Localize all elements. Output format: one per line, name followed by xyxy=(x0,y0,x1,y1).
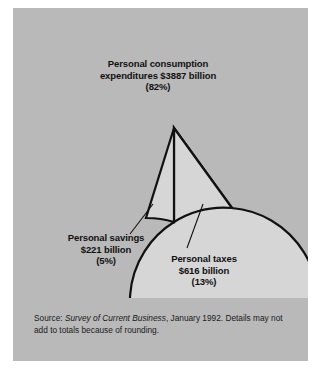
taxes-label-line1: Personal taxes xyxy=(138,253,270,265)
taxes-label-line3: (13%) xyxy=(138,276,270,288)
source-note: Source: Survey of Current Business, Janu… xyxy=(34,313,294,336)
taxes-label-line2: $616 billion xyxy=(138,265,270,277)
savings-label-line1: Personal savings xyxy=(40,232,172,244)
slice-label-taxes: Personal taxes $616 billion (13%) xyxy=(138,253,270,288)
consumption-label-line3: (82%) xyxy=(53,81,263,93)
consumption-label-line2: expenditures $3887 billion xyxy=(53,70,263,82)
slice-label-consumption: Personal consumption expenditures $3887 … xyxy=(53,58,263,93)
pie-slice-taxes xyxy=(174,128,232,222)
source-journal-title: Survey of Current Business xyxy=(65,313,166,323)
pie-chart: Personal consumption expenditures $3887 … xyxy=(13,8,308,298)
consumption-label-line1: Personal consumption xyxy=(53,58,263,70)
source-prefix: Source: xyxy=(34,313,65,323)
chart-panel: Personal consumption expenditures $3887 … xyxy=(13,8,308,361)
figure-page: Personal consumption expenditures $3887 … xyxy=(0,0,322,377)
